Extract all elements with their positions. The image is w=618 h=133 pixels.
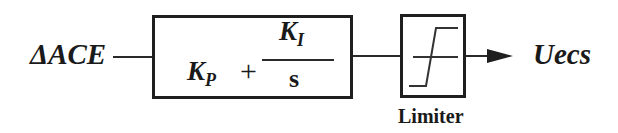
output-label-uecs: Uecs (533, 38, 591, 71)
output-arrow-icon (0, 0, 618, 133)
pi-controller-block-diagram: ΔACE KP + KI s Limiter Uecs (0, 0, 618, 133)
